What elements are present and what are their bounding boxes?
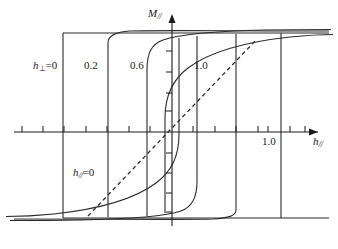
annotation-h-perp-1-0: 1.0 (194, 59, 208, 71)
annotation-h-perp-0-value: =0 (46, 59, 58, 71)
x-axis-label: h// (313, 135, 323, 149)
hysteresis-loop-chart: h⊥=0 0.2 0.6 1.0 h//=0 M// h// 1.0 (0, 0, 338, 249)
x-axis-ticks (22, 126, 305, 132)
x-axis-label-subscript: // (319, 139, 323, 149)
annotation-h-perp-0-6: 0.6 (130, 59, 144, 71)
chart-canvas (0, 0, 338, 249)
y-axis-label: M// (148, 7, 161, 21)
annotation-h-parallel-zero: h//=0 (73, 166, 94, 180)
x-tick-label-1-0: 1.0 (262, 135, 276, 147)
y-axis-arrow (169, 14, 176, 23)
annotation-h-perp-0-subscript: ⊥ (39, 64, 46, 73)
y-axis-label-symbol: M (148, 7, 157, 19)
annotation-h-perp-0: h⊥=0 (33, 59, 57, 73)
annotation-h-perp-0-2: 0.2 (84, 59, 98, 71)
curve-h-perp-0-6 (10, 30, 331, 221)
annotation-h-parallel-zero-value: =0 (83, 166, 95, 178)
y-axis-label-subscript: // (157, 11, 161, 21)
axes (14, 16, 318, 226)
